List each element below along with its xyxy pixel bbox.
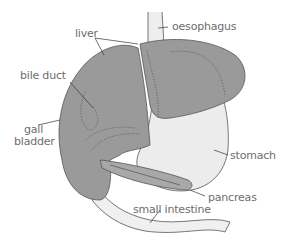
label-pancreas: pancreas [208, 192, 257, 204]
label-liver: liver [75, 28, 98, 40]
label-bile-duct: bile duct [20, 70, 66, 82]
liver-right-lobe [140, 39, 245, 118]
oesophagus-shape [148, 12, 164, 44]
label-gall-bladder-line2: bladder [14, 136, 55, 148]
label-small-intestine: small intestine [133, 204, 211, 216]
label-oesophagus: oesophagus [172, 21, 236, 33]
label-stomach: stomach [230, 150, 276, 162]
